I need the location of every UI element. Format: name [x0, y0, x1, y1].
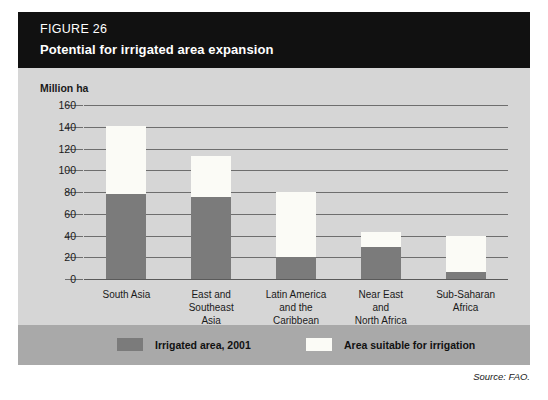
- bar-segment-irrigated[interactable]: [106, 194, 146, 279]
- chart-panel: Million ha 020406080100120140160 South A…: [18, 68, 530, 325]
- bar-segment-suitable[interactable]: [106, 126, 146, 195]
- y-axis-unit-label: Million ha: [40, 82, 88, 94]
- bar-group[interactable]: Sub-SaharanAfrica: [446, 105, 486, 279]
- gridline: [84, 279, 508, 280]
- bar-stack[interactable]: [446, 236, 486, 279]
- bar-stack[interactable]: [276, 192, 316, 279]
- legend-swatch: [306, 338, 332, 351]
- y-axis-tick-label: 120: [58, 143, 76, 155]
- bar-stack[interactable]: [106, 126, 146, 279]
- bars-layer: South AsiaEast andSoutheastAsiaLatin Ame…: [84, 105, 508, 279]
- y-axis-tick-label: 40: [64, 230, 76, 242]
- legend-item[interactable]: Irrigated area, 2001: [117, 338, 251, 351]
- bar-segment-irrigated[interactable]: [361, 247, 401, 279]
- bar-stack[interactable]: [361, 232, 401, 279]
- plot-area: 020406080100120140160 South AsiaEast and…: [84, 105, 508, 279]
- page-title: Potential for irrigated area expansion: [40, 40, 530, 59]
- bar-segment-suitable[interactable]: [191, 156, 231, 197]
- bar-segment-suitable[interactable]: [361, 232, 401, 247]
- figure-number: FIGURE 26: [40, 21, 530, 38]
- y-axis-tick-label: 140: [58, 121, 76, 133]
- bar-segment-irrigated[interactable]: [191, 197, 231, 279]
- y-axis-tick-label: 100: [58, 164, 76, 176]
- legend: Irrigated area, 2001Area suitable for ir…: [18, 325, 530, 365]
- legend-swatch: [117, 338, 143, 351]
- bar-stack[interactable]: [191, 156, 231, 279]
- legend-label: Irrigated area, 2001: [155, 339, 251, 351]
- legend-label: Area suitable for irrigation: [344, 339, 475, 351]
- bar-group[interactable]: South Asia: [106, 105, 146, 279]
- x-axis-category-label: Sub-SaharanAfrica: [411, 288, 521, 314]
- y-axis-tick-label: 160: [58, 99, 76, 111]
- source-note: Source: FAO.: [473, 371, 530, 382]
- bar-group[interactable]: East andSoutheastAsia: [191, 105, 231, 279]
- y-axis-tick-label: 60: [64, 208, 76, 220]
- figure-container: FIGURE 26 Potential for irrigated area e…: [0, 0, 548, 400]
- figure-title-bar: FIGURE 26 Potential for irrigated area e…: [18, 12, 530, 68]
- y-axis-tick-label: 0: [70, 273, 76, 285]
- y-axis-tick-label: 80: [64, 186, 76, 198]
- bar-group[interactable]: Near EastandNorth Africa: [361, 105, 401, 279]
- bar-segment-irrigated[interactable]: [446, 272, 486, 279]
- bar-segment-suitable[interactable]: [446, 236, 486, 273]
- legend-item[interactable]: Area suitable for irrigation: [306, 338, 475, 351]
- bar-group[interactable]: Latin Americaand theCaribbean: [276, 105, 316, 279]
- bar-segment-suitable[interactable]: [276, 192, 316, 257]
- bar-segment-irrigated[interactable]: [276, 257, 316, 279]
- y-axis-tick-label: 20: [64, 251, 76, 263]
